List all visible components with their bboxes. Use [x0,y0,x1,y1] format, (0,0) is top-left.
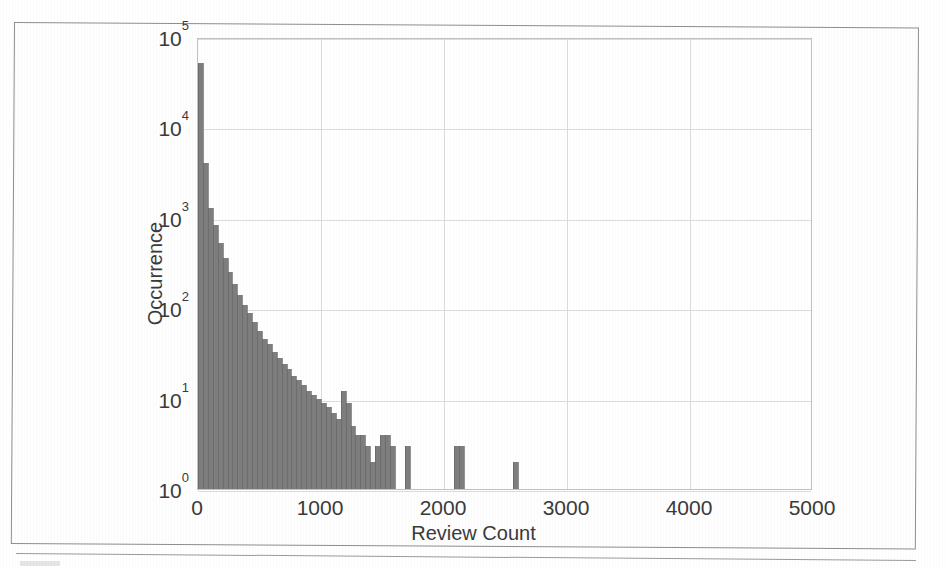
y-axis-tick-label: 102 [69,297,189,322]
gridline-horizontal [198,491,811,492]
y-axis-tick-label: 101 [69,387,189,412]
x-axis-tick-label: 2000 [383,496,503,520]
y-axis-tick-label: 103 [69,206,189,231]
x-axis-tick-label: 0 [137,496,257,520]
histogram-bar [390,446,396,489]
x-axis-label: Review Count [0,522,947,545]
y-axis-tick-label: 104 [69,116,189,141]
histogram-figure: 100101102103104105 010002000300040005000… [0,0,947,569]
x-axis-tick-label: 5000 [752,496,872,520]
plot-area [197,38,812,490]
x-axis-tick-label: 1000 [260,496,380,520]
x-axis-tick-label: 3000 [506,496,626,520]
histogram-bar [513,462,519,489]
y-axis-label: Occurrence [144,222,167,325]
x-axis-tick-label: 4000 [629,496,749,520]
histogram-bar [459,446,465,489]
y-axis-tick-label: 105 [69,26,189,51]
histogram-bars [198,39,811,489]
histogram-bar [405,446,411,489]
